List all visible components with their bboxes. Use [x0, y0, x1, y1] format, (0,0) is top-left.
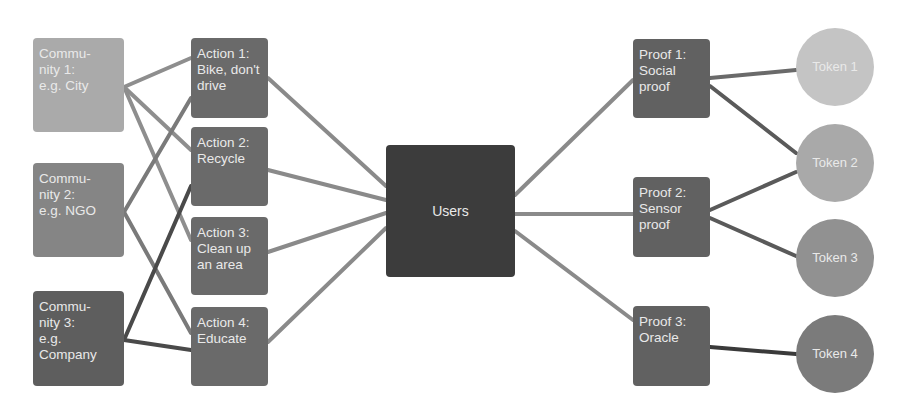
node-a3: Action 3:Clean upan area	[191, 217, 268, 295]
node-p1: Proof 1:Socialproof	[633, 39, 710, 118]
edge-p1-t1	[710, 70, 796, 78]
edge-p2-t3	[710, 218, 796, 256]
node-label-line: Sensor	[639, 201, 704, 217]
node-t2: Token 2	[796, 124, 874, 202]
edge-u-p3	[515, 231, 633, 320]
node-users: Users	[386, 145, 515, 277]
network-diagram: Commu-nity 1:e.g. CityCommu-nity 2:e.g. …	[0, 0, 908, 412]
node-label-line: e.g. NGO	[39, 203, 118, 219]
node-t4: Token 4	[796, 315, 874, 393]
edge-a1-u	[268, 78, 386, 186]
node-c2: Commu-nity 2:e.g. NGO	[33, 163, 124, 257]
node-label-line: Action 4:	[197, 315, 262, 331]
edge-c3-a4	[124, 340, 191, 350]
edge-c2-a1	[124, 98, 191, 212]
node-p3: Proof 3:Oracle	[633, 306, 710, 386]
node-label-line: Proof 3:	[639, 314, 704, 330]
node-label-line: Recycle	[197, 151, 262, 167]
node-label-line: Action 2:	[197, 135, 262, 151]
edge-p2-t2	[710, 172, 796, 210]
node-label-line: Company	[39, 347, 118, 363]
node-t3: Token 3	[796, 219, 874, 297]
node-label-line: proof	[639, 217, 704, 233]
node-label-line: Proof 1:	[639, 47, 704, 63]
node-p2: Proof 2:Sensorproof	[633, 177, 710, 257]
edge-u-p1	[515, 80, 633, 195]
node-label-line: e.g. City	[39, 78, 118, 94]
node-label-line: Educate	[197, 331, 262, 347]
edge-c1-a3	[124, 87, 191, 240]
node-label-line: Social	[639, 63, 704, 79]
token-label: Token 4	[812, 346, 858, 362]
node-label-line: nity 1:	[39, 62, 118, 78]
node-a1: Action 1:Bike, don'tdrive	[191, 38, 268, 118]
edge-p3-t4	[710, 347, 796, 354]
node-label-line: nity 3:	[39, 315, 118, 331]
node-label-line: Oracle	[639, 330, 704, 346]
token-label: Token 2	[812, 155, 858, 171]
node-label-line: Commu-	[39, 46, 118, 62]
edge-c1-a1	[124, 58, 191, 87]
node-c3: Commu-nity 3:e.g.Company	[33, 291, 124, 386]
edge-p1-t2	[710, 86, 796, 153]
node-label-line: Action 3:	[197, 225, 262, 241]
edge-a2-u	[268, 170, 386, 200]
node-label-line: nity 2:	[39, 187, 118, 203]
node-label-line: e.g.	[39, 331, 118, 347]
node-label-line: Commu-	[39, 299, 118, 315]
node-label-line: drive	[197, 78, 262, 94]
node-label-line: an area	[197, 257, 262, 273]
node-label-line: Commu-	[39, 171, 118, 187]
token-label: Token 1	[812, 59, 858, 75]
users-label: Users	[432, 203, 469, 219]
node-t1: Token 1	[796, 28, 874, 106]
node-c1: Commu-nity 1:e.g. City	[33, 38, 124, 132]
node-label-line: Clean up	[197, 241, 262, 257]
token-label: Token 3	[812, 250, 858, 266]
node-label-line: proof	[639, 79, 704, 95]
node-label-line: Proof 2:	[639, 185, 704, 201]
node-a2: Action 2:Recycle	[191, 127, 268, 206]
node-label-line: Bike, don't	[197, 62, 262, 78]
node-label-line: Action 1:	[197, 46, 262, 62]
node-a4: Action 4:Educate	[191, 307, 268, 386]
